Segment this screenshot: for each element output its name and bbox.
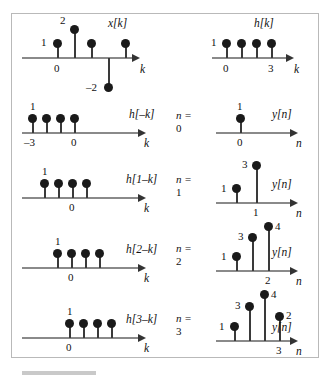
y3-value-label-1: 1 xyxy=(219,321,225,332)
plot-h-neg-k: 1 –3 0 h[–k] k xyxy=(12,92,172,154)
y2-marker xyxy=(248,233,257,242)
y2-stem xyxy=(268,226,270,271)
hk-axis-label: k xyxy=(294,63,299,75)
n-marker-2-value: 2 xyxy=(176,255,182,267)
plot-h-3-k: 1 0 h[3–k] k xyxy=(12,288,172,358)
figure-frame: 1 2 –2 0 x[k] k 1 0 3 h[k] k 1 xyxy=(11,13,319,358)
h-2-k-marker xyxy=(67,249,76,258)
xk-marker xyxy=(87,39,96,48)
y2-marker xyxy=(232,252,241,261)
h-neg-k-axis-label: k xyxy=(144,137,149,149)
h-1-k-axis-line xyxy=(22,197,140,199)
y1-axis-arrow-icon xyxy=(290,199,298,207)
hk-axis-line xyxy=(212,57,288,59)
h-1-k-amplitude-label-1: 1 xyxy=(42,166,48,177)
y0-axis-line xyxy=(216,132,292,134)
hk-tick-3: 3 xyxy=(268,63,274,74)
y3-axis-arrow-icon xyxy=(290,337,298,345)
h-neg-k-tick-0: 0 xyxy=(71,137,77,148)
hk-axis-arrow-icon xyxy=(286,54,294,62)
y2-tick-2: 2 xyxy=(265,275,271,286)
y2-axis-arrow-icon xyxy=(290,267,298,275)
h-3-k-axis-line xyxy=(22,337,140,339)
y1-marker xyxy=(252,161,261,170)
hk-amplitude-label-1: 1 xyxy=(211,37,217,48)
y0-value-label-1: 1 xyxy=(237,101,243,112)
n-marker-0-value: 0 xyxy=(176,122,182,134)
h-3-k-marker xyxy=(93,319,102,328)
y3-value-label-2: 2 xyxy=(286,310,292,321)
h-3-k-signal-label: h[3–k] xyxy=(126,313,157,325)
h-3-k-tick-0: 0 xyxy=(66,342,72,353)
h-neg-k-marker xyxy=(28,114,37,123)
n-marker-1: n = 1 xyxy=(176,173,192,199)
n-marker-1-value: 1 xyxy=(176,186,182,198)
plot-xk: 1 2 –2 0 x[k] k xyxy=(12,14,162,92)
h-2-k-axis-arrow-icon xyxy=(138,264,146,272)
h-1-k-marker xyxy=(82,179,91,188)
xk-tick-0: 0 xyxy=(54,63,60,74)
y3-marker xyxy=(275,312,284,321)
plot-h-2-k: 1 0 h[2–k] k xyxy=(12,220,172,288)
y1-value-label-1: 1 xyxy=(221,183,227,194)
y0-tick-0: 0 xyxy=(237,137,243,148)
h-2-k-amplitude-label-1: 1 xyxy=(55,236,61,247)
h-1-k-marker xyxy=(54,179,63,188)
h-3-k-amplitude-label-1: 1 xyxy=(67,306,73,317)
h-2-k-axis-label: k xyxy=(144,272,149,284)
h-3-k-axis-arrow-icon xyxy=(138,334,146,342)
xk-amplitude-label-1: 1 xyxy=(41,37,47,48)
h-2-k-tick-0: 0 xyxy=(68,272,74,283)
y2-axis-line xyxy=(216,270,292,272)
y0-axis-arrow-icon xyxy=(290,129,298,137)
h-neg-k-signal-label: h[–k] xyxy=(129,108,155,120)
n-marker-2: n = 2 xyxy=(176,242,192,268)
plot-y1: 1 3 1 y[n] n xyxy=(210,154,322,220)
y0-signal-label: y[n] xyxy=(272,108,292,120)
n-marker-0-prefix: n = xyxy=(176,109,192,121)
xk-marker xyxy=(53,39,62,48)
hk-tick-0: 0 xyxy=(223,63,229,74)
h-1-k-axis-label: k xyxy=(144,202,149,214)
hk-marker xyxy=(252,39,261,48)
h-neg-k-axis-arrow-icon xyxy=(138,129,146,137)
xk-axis-line xyxy=(22,57,134,59)
h-1-k-tick-0: 0 xyxy=(69,202,75,213)
xk-axis-arrow-icon xyxy=(132,54,140,62)
n-marker-1-prefix: n = xyxy=(176,173,192,185)
n-marker-3-value: 3 xyxy=(176,325,182,337)
y1-axis-line xyxy=(216,202,292,204)
y2-stem xyxy=(252,237,254,271)
h-neg-k-marker xyxy=(70,114,79,123)
y1-axis-label: n xyxy=(296,207,302,219)
y1-marker xyxy=(232,184,241,193)
hk-marker xyxy=(267,39,276,48)
h-3-k-axis-label: k xyxy=(144,342,149,354)
xk-marker xyxy=(70,25,79,34)
h-1-k-marker xyxy=(40,179,49,188)
y3-signal-label: y[n] xyxy=(272,321,292,333)
h-2-k-signal-label: h[2–k] xyxy=(126,243,157,255)
y3-stem xyxy=(249,306,251,341)
xk-amplitude-label-2: 2 xyxy=(60,15,66,26)
xk-signal-label: x[k] xyxy=(108,17,127,29)
n-marker-3-prefix: n = xyxy=(176,312,192,324)
n-marker-3: n = 3 xyxy=(176,312,192,338)
bottom-rule xyxy=(22,371,96,375)
y1-tick-1: 1 xyxy=(253,207,259,218)
h-2-k-axis-line xyxy=(22,267,140,269)
hk-signal-label: h[k] xyxy=(254,17,274,29)
h-3-k-marker xyxy=(107,319,116,328)
h-neg-k-amplitude-label-1: 1 xyxy=(30,101,36,112)
y3-marker xyxy=(245,302,254,311)
h-2-k-marker xyxy=(53,249,62,258)
plot-hk: 1 0 3 h[k] k xyxy=(202,14,320,92)
y0-marker xyxy=(236,114,245,123)
h-1-k-marker xyxy=(68,179,77,188)
y3-stem xyxy=(264,294,266,341)
hk-marker xyxy=(237,39,246,48)
h-2-k-marker xyxy=(95,249,104,258)
plot-y0: 1 0 y[n] n xyxy=(210,92,322,154)
plot-y2: 1 3 4 2 y[n] n xyxy=(210,220,322,288)
y3-marker xyxy=(260,290,269,299)
